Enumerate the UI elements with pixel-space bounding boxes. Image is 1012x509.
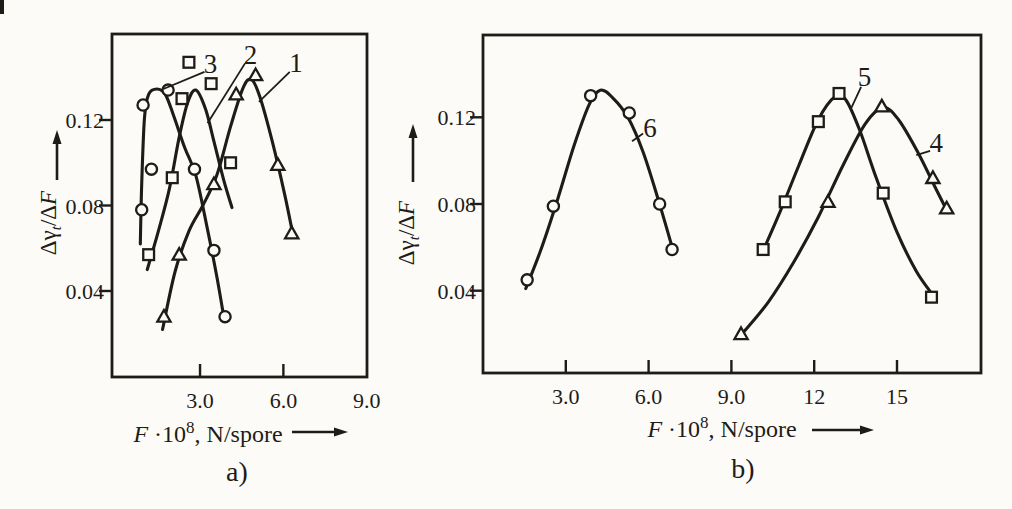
series-1-marker-triangle <box>285 227 298 239</box>
series-2-marker-square <box>167 172 178 183</box>
series-6-label: 6 <box>643 113 657 143</box>
series-5-curve <box>762 95 933 295</box>
series-2-curve <box>147 90 232 270</box>
series-2-marker-square <box>177 93 188 104</box>
panel-b: 3.06.09.012150.040.080.12456F ·108, N/sp… <box>394 35 981 484</box>
series-2-marker-square <box>206 78 217 89</box>
series-3-leader <box>163 72 204 89</box>
figure-canvas: 3.06.09.00.040.080.12123F ·108, N/sporeΔ… <box>0 0 1012 509</box>
up-arrowhead-icon <box>53 130 62 144</box>
x-tick-label: 9.0 <box>718 384 746 409</box>
panel-letter: a) <box>226 456 248 487</box>
x-tick-label: 6.0 <box>635 384 663 409</box>
series-6-marker-circle <box>522 274 533 285</box>
series-1-marker-triangle <box>249 69 262 81</box>
y-tick-label: 0.12 <box>66 108 105 133</box>
x-axis-label: F ·108, N/spore <box>132 418 282 447</box>
x-tick-label: 6.0 <box>270 388 298 413</box>
series-2-marker-square <box>184 57 195 68</box>
series-5-marker-square <box>878 188 889 199</box>
x-tick-label: 9.0 <box>353 388 381 413</box>
series-1-marker-triangle <box>157 310 170 322</box>
series-5-marker-square <box>834 88 845 99</box>
series-1-marker-triangle <box>207 178 220 190</box>
x-tick-label: 3.0 <box>552 384 580 409</box>
series-6-marker-circle <box>548 201 559 212</box>
y-tick-label: 0.08 <box>438 192 477 217</box>
series-6-marker-circle <box>666 244 677 255</box>
series-5-marker-square <box>780 196 791 207</box>
panel-letter: b) <box>731 453 754 484</box>
y-tick-label: 0.08 <box>66 194 105 219</box>
series-1-curve <box>163 79 294 330</box>
series-5-label: 5 <box>858 62 872 92</box>
y-axis-label: Δγt/ΔF <box>394 200 422 265</box>
series-6-marker-circle <box>585 90 596 101</box>
series-1-marker-triangle <box>173 248 186 260</box>
plot-border <box>112 34 367 377</box>
series-6-marker-circle <box>654 198 665 209</box>
x-tick-label: 3.0 <box>186 388 214 413</box>
series-3-marker-circle <box>136 204 147 215</box>
series-4-marker-triangle <box>821 195 834 207</box>
series-1-leader <box>259 72 290 102</box>
series-6-marker-circle <box>624 107 635 118</box>
series-1-marker-triangle <box>271 158 284 170</box>
y-tick-label: 0.12 <box>438 105 477 130</box>
series-5-marker-square <box>813 116 824 127</box>
series-4-label: 4 <box>929 128 943 158</box>
figure-page: 3.06.09.00.040.080.12123F ·108, N/sporeΔ… <box>0 0 1012 509</box>
series-3-marker-circle <box>137 99 148 110</box>
series-5-marker-square <box>926 292 937 303</box>
series-3-marker-circle <box>189 164 200 175</box>
series-3-label: 3 <box>204 49 218 79</box>
series-1-label: 1 <box>289 48 303 78</box>
series-3-marker-circle <box>219 311 230 322</box>
series-4-curve <box>744 107 948 331</box>
panel-a: 3.06.09.00.040.080.12123F ·108, N/sporeΔ… <box>36 34 380 487</box>
y-tick-label: 0.04 <box>438 279 477 304</box>
series-1-marker-triangle <box>230 88 243 100</box>
series-3-marker-circle <box>146 164 157 175</box>
series-5-marker-square <box>758 244 769 255</box>
series-2-label: 2 <box>244 40 258 70</box>
series-4-marker-triangle <box>875 100 888 112</box>
y-tick-label: 0.04 <box>66 279 105 304</box>
scan-artifact <box>0 0 4 14</box>
x-tick-label: 15 <box>886 384 908 409</box>
x-axis-label: F ·108, N/spore <box>646 413 796 442</box>
up-arrowhead-icon <box>409 124 418 138</box>
right-arrowhead-icon <box>334 428 348 437</box>
right-arrowhead-icon <box>860 426 874 435</box>
x-tick-label: 12 <box>803 384 825 409</box>
y-axis-label: Δγt/ΔF <box>36 190 64 255</box>
series-2-marker-square <box>225 157 236 168</box>
series-2-marker-square <box>143 249 154 260</box>
series-3-marker-circle <box>208 245 219 256</box>
